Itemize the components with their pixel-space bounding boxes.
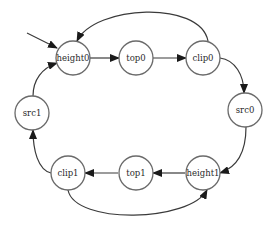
- edge-start-height0: [27, 33, 57, 48]
- svg-text:top1: top1: [126, 168, 145, 178]
- edge-clip1-src1: [33, 130, 51, 173]
- edge-clip0-src0: [220, 58, 244, 93]
- svg-text:clip0: clip0: [192, 53, 213, 63]
- node-src1: src1: [15, 96, 49, 130]
- svg-text:src0: src0: [236, 105, 255, 115]
- edge-src0-height1: [220, 127, 246, 173]
- state-diagram: height0 top0 clip0 src0 height1 top1 cli…: [0, 0, 276, 228]
- node-clip0: clip0: [186, 41, 220, 75]
- svg-text:height0: height0: [57, 53, 90, 63]
- svg-text:top0: top0: [126, 53, 145, 63]
- node-height1: height1: [186, 156, 220, 190]
- edge-clip1-height1: [68, 190, 207, 215]
- edge-src1-height0: [33, 63, 57, 96]
- svg-text:height1: height1: [187, 168, 220, 178]
- node-top1: top1: [119, 156, 153, 190]
- node-src0: src0: [228, 93, 262, 127]
- edge-clip0-height0: [77, 12, 208, 41]
- svg-text:clip1: clip1: [57, 168, 78, 178]
- node-top0: top0: [119, 41, 153, 75]
- svg-text:src1: src1: [23, 108, 42, 118]
- node-height0: height0: [56, 41, 90, 75]
- node-clip1: clip1: [51, 156, 85, 190]
